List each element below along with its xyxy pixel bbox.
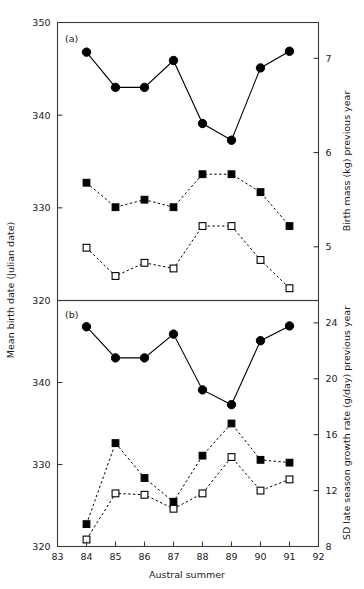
x-tick-label: 87 xyxy=(167,551,179,562)
data-point xyxy=(257,189,264,196)
chart-svg: (a) 320330340350 567 (b) 320330340 81216… xyxy=(0,0,364,589)
data-point xyxy=(141,491,148,498)
x-tick-label: 90 xyxy=(254,551,266,562)
data-point xyxy=(228,420,235,427)
data-point xyxy=(198,119,206,127)
panel-a-right-axis-title: Birth mass (kg) previous year xyxy=(341,91,352,232)
data-point xyxy=(169,330,177,338)
y2-tick-label: 20 xyxy=(326,373,338,384)
panel-a-series xyxy=(82,47,293,292)
data-point xyxy=(140,83,148,91)
data-point xyxy=(286,285,293,292)
y-tick-label: 330 xyxy=(32,459,50,470)
series-line xyxy=(87,174,290,226)
x-tick-label: 84 xyxy=(80,551,92,562)
panel-b-right-axis-title: SD late season growth rate (g/day) previ… xyxy=(341,306,352,540)
panel-b-right-ticks: 812162024 xyxy=(314,317,338,552)
data-point xyxy=(199,490,206,497)
data-point xyxy=(227,136,235,144)
data-point xyxy=(170,498,177,505)
data-point xyxy=(286,223,293,230)
data-point xyxy=(170,265,177,272)
x-tick-label: 89 xyxy=(225,551,237,562)
y2-tick-label: 12 xyxy=(326,485,338,496)
panel-b-series xyxy=(82,322,293,543)
data-point xyxy=(227,400,235,408)
data-point xyxy=(257,456,264,463)
data-point xyxy=(198,386,206,394)
data-point xyxy=(141,475,148,482)
data-point xyxy=(141,259,148,266)
data-point xyxy=(257,487,264,494)
x-axis-ticks: 83848586878889909192 xyxy=(51,542,324,562)
y-tick-label: 340 xyxy=(32,110,50,121)
data-point xyxy=(199,452,206,459)
panel-a-label: (a) xyxy=(65,33,78,44)
data-point xyxy=(199,223,206,230)
data-point xyxy=(111,354,119,362)
y-tick-label: 340 xyxy=(32,377,50,388)
x-axis-title: Austral summer xyxy=(149,569,225,580)
data-point xyxy=(112,273,119,280)
data-point xyxy=(286,459,293,466)
series-line xyxy=(87,424,290,525)
y-tick-label: 320 xyxy=(32,295,50,306)
panel-a: (a) 320330340350 567 xyxy=(32,17,331,306)
y-tick-label: 350 xyxy=(32,17,50,28)
data-point xyxy=(170,505,177,512)
panel-b: (b) 320330340 812162024 8384858687888990… xyxy=(32,301,337,562)
y2-tick-label: 6 xyxy=(326,147,332,158)
y2-tick-label: 24 xyxy=(326,317,338,328)
x-tick-label: 88 xyxy=(196,551,208,562)
y2-tick-label: 16 xyxy=(326,429,338,440)
left-axis-title: Mean birth date (Julian date) xyxy=(5,222,16,358)
x-tick-label: 85 xyxy=(109,551,121,562)
data-point xyxy=(112,440,119,447)
data-point xyxy=(170,204,177,211)
data-point xyxy=(256,64,264,72)
data-point xyxy=(83,244,90,251)
data-point xyxy=(285,322,293,330)
y2-tick-label: 8 xyxy=(326,541,332,552)
x-tick-label: 92 xyxy=(312,551,324,562)
data-point xyxy=(228,454,235,461)
data-point xyxy=(112,204,119,211)
data-point xyxy=(111,83,119,91)
data-point xyxy=(140,354,148,362)
data-point xyxy=(112,490,119,497)
y-tick-label: 330 xyxy=(32,202,50,213)
data-point xyxy=(199,171,206,178)
data-point xyxy=(169,56,177,64)
data-point xyxy=(228,171,235,178)
data-point xyxy=(285,47,293,55)
data-point xyxy=(82,48,90,56)
y2-tick-label: 5 xyxy=(326,241,332,252)
panel-b-label: (b) xyxy=(65,309,78,320)
data-point xyxy=(286,476,293,483)
data-point xyxy=(83,521,90,528)
x-tick-label: 91 xyxy=(283,551,295,562)
x-tick-label: 83 xyxy=(51,551,63,562)
panel-a-right-ticks: 567 xyxy=(314,53,332,252)
series-line xyxy=(87,457,290,539)
y2-tick-label: 7 xyxy=(326,53,332,64)
data-point xyxy=(83,179,90,186)
figure-container: (a) 320330340350 567 (b) 320330340 81216… xyxy=(0,0,364,589)
data-point xyxy=(141,196,148,203)
data-point xyxy=(257,257,264,264)
data-point xyxy=(256,336,264,344)
data-point xyxy=(228,223,235,230)
y-tick-label: 320 xyxy=(32,541,50,552)
data-point xyxy=(82,323,90,331)
x-tick-label: 86 xyxy=(138,551,150,562)
